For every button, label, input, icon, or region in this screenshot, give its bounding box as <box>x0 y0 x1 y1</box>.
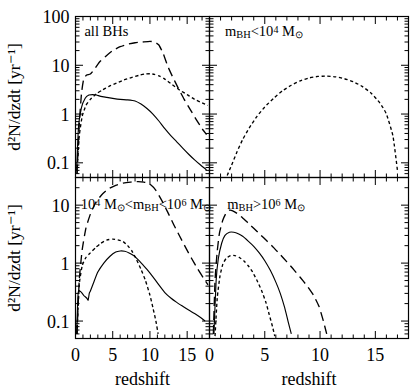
panel-title-all-bhs: all BHs <box>84 23 128 39</box>
x-tick-label: 0 <box>71 345 80 365</box>
x-axis-title: redshift <box>115 369 170 389</box>
x-tick-label: 15 <box>178 345 196 365</box>
y-axis-title-top: d²N/dzdt [yr⁻¹] <box>4 43 24 150</box>
y-tick-label: 1 <box>61 254 70 274</box>
x-tick-label: 5 <box>108 345 117 365</box>
plot-canvas: 0.11101000.1110051015redshift051015redsh… <box>0 0 418 391</box>
x-tick-label: 10 <box>141 345 159 365</box>
y-tick-label: 0.1 <box>47 312 70 332</box>
x-tick-label: 0 <box>205 345 214 365</box>
x-axis-title: redshift <box>282 369 337 389</box>
x-tick-label: 5 <box>260 345 269 365</box>
y-tick-label: 10 <box>52 196 70 216</box>
y-axis-title-bottom: d²N/dzdt [yr⁻¹] <box>4 204 24 311</box>
x-tick-label: 15 <box>366 345 384 365</box>
y-tick-label: 100 <box>43 7 70 27</box>
y-tick-label: 10 <box>52 56 70 76</box>
y-tick-label: 0.1 <box>47 153 70 173</box>
y-tick-label: 1 <box>61 105 70 125</box>
figure-root: 0.11101000.1110051015redshift051015redsh… <box>0 0 418 391</box>
x-tick-label: 10 <box>311 345 329 365</box>
